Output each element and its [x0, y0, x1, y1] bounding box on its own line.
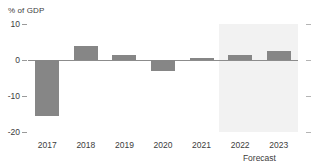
x-tick-label-2018: 2018: [76, 140, 95, 150]
y-tick-mark-10: [22, 24, 27, 25]
y-tick-mark-right--10: [306, 96, 311, 97]
gdp-bar-chart: % of GDP 100-10-20 201720182019202020212…: [0, 0, 314, 163]
x-tick-label-2023: 2023: [269, 140, 288, 150]
bar-2023: [267, 51, 291, 60]
x-tick-label-2017: 2017: [38, 140, 57, 150]
y-tick-label--10: -10: [8, 91, 20, 101]
y-tick-label-0: 0: [15, 55, 20, 65]
bar-2017: [35, 60, 59, 116]
bar-2018: [74, 46, 98, 60]
y-tick-mark-right-10: [306, 24, 311, 25]
x-tick-label-2021: 2021: [192, 140, 211, 150]
y-tick-mark-right--20: [306, 132, 311, 133]
x-tick-label-2019: 2019: [115, 140, 134, 150]
y-tick-mark--20: [22, 132, 27, 133]
bar-2019: [112, 55, 136, 60]
forecast-annotation-label: Forecast: [243, 153, 276, 163]
y-tick-mark--10: [22, 96, 27, 97]
x-tick-label-2020: 2020: [154, 140, 173, 150]
plot-area: [28, 24, 298, 132]
bar-2021: [190, 58, 214, 60]
y-axis-title: % of GDP: [8, 6, 44, 15]
y-tick-mark-0: [22, 60, 27, 61]
bar-2020: [151, 60, 175, 71]
y-tick-mark-right-0: [306, 60, 311, 61]
forecast-shaded-band: [219, 24, 298, 132]
y-tick-label-10: 10: [11, 19, 20, 29]
x-tick-label-2022: 2022: [231, 140, 250, 150]
y-tick-label--20: -20: [8, 127, 20, 137]
bar-2022: [228, 55, 252, 60]
